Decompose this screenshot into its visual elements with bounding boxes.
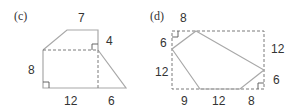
label-d-right-bottom: 6: [273, 73, 280, 87]
right-angle-icon: [43, 82, 49, 88]
label-c-right-top: 4: [106, 34, 113, 48]
label-d-top: 8: [180, 11, 187, 25]
label-c-bottom-right: 6: [108, 94, 115, 108]
figure-d: (d) 8 6 12 12 6 9 12 8: [150, 9, 285, 108]
label-d-right-top: 12: [271, 42, 285, 56]
figure-d-polygon: [172, 31, 264, 89]
label-d-left-top: 6: [160, 36, 167, 50]
figure-c: (c) 7 4 8 12 6: [14, 9, 126, 108]
right-angle-icon: [92, 44, 98, 50]
figure-c-top-outline: [43, 30, 98, 50]
figure-d-tag: (d): [150, 9, 164, 23]
figure-c-bottom-outline: [43, 50, 126, 88]
right-angle-icon: [172, 31, 178, 37]
label-d-bottom-left: 9: [181, 94, 188, 108]
label-d-left-bottom: 12: [155, 65, 169, 79]
figure-c-tag: (c): [14, 9, 27, 23]
label-c-left: 8: [28, 63, 35, 77]
label-d-bottom-mid: 12: [212, 94, 226, 108]
label-c-bottom-left: 12: [64, 94, 78, 108]
right-angle-icon: [258, 83, 264, 89]
label-c-top: 7: [78, 11, 85, 25]
label-d-bottom-right: 8: [248, 94, 255, 108]
diagram-canvas: (c) 7 4 8 12 6 (d) 8 6 12 12 6 9 12 8: [0, 0, 291, 110]
